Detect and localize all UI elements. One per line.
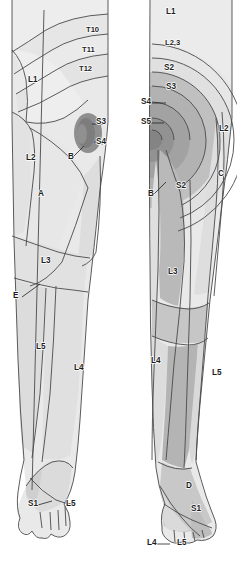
label-t11: T11 (82, 45, 95, 54)
label-b: B (68, 152, 74, 161)
label-r-l1: L1 (166, 7, 176, 16)
label-r-l5b: L5 (177, 538, 187, 547)
label-t10: T10 (86, 25, 99, 34)
label-r-s1: S1 (191, 504, 201, 513)
label-r-l2: L2 (219, 124, 229, 133)
label-r-l3: L3 (168, 267, 178, 276)
label-r-d: D (186, 481, 192, 490)
label-r-s3: S3 (166, 82, 176, 91)
label-r-l23: L2,3 (165, 38, 180, 47)
label-l5: L5 (36, 342, 46, 351)
label-l4: L4 (74, 363, 84, 372)
label-r-c: C (218, 169, 224, 178)
label-s1: S1 (28, 499, 38, 508)
label-r-s4: S4 (141, 97, 151, 106)
label-t12: T12 (79, 64, 92, 73)
label-r-l5: L5 (212, 368, 222, 377)
label-l3: L3 (41, 256, 51, 265)
label-r-s5: S5 (141, 117, 151, 126)
dermatome-figure: T10 T11 T12 L1 S3 S4 L2 B A L3 E L5 L4 S… (0, 0, 237, 579)
label-l5-foot: L5 (66, 499, 76, 508)
label-s3: S3 (96, 117, 106, 126)
label-r-l4: L4 (151, 356, 161, 365)
label-r-b: B (148, 189, 154, 198)
label-e: E (13, 291, 19, 300)
label-a: A (38, 189, 44, 198)
label-s4: S4 (96, 137, 106, 146)
label-r-s2: S2 (164, 63, 174, 72)
label-l1: L1 (28, 75, 38, 84)
label-l2: L2 (26, 153, 36, 162)
label-r-l4b: L4 (147, 538, 157, 547)
label-r-s2b: S2 (176, 181, 186, 190)
